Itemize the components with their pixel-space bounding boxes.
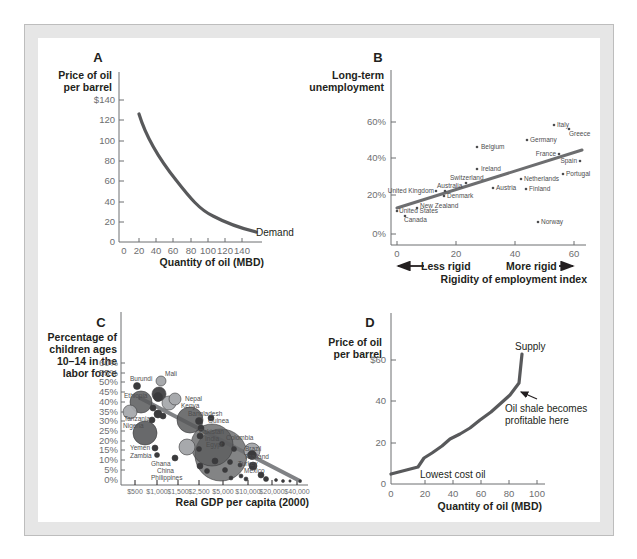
xtick-label: 0	[394, 248, 399, 259]
panel-c-ylabel-line1: Percentage of	[48, 331, 118, 343]
ytick-label: 0%	[372, 228, 386, 239]
panel-b: B Long-term unemployment 60% 40% 20% 0% …	[309, 50, 590, 285]
country-label: Yemen	[130, 444, 150, 451]
country-label: Zambia	[130, 452, 152, 459]
ytick-label: 0	[110, 236, 115, 247]
xtick-label: 0	[388, 488, 393, 499]
lowest-cost-oil-label: Lowest cost oil	[420, 469, 486, 480]
ytick-label: 0	[381, 478, 386, 489]
ytick-label: $140	[94, 94, 115, 105]
xtick-label: 120	[217, 245, 233, 256]
panel-b-xlabel: Rigidity of employment index	[441, 273, 588, 285]
country-label: Germany	[530, 136, 557, 144]
panel-b-ylabel-line2: unemployment	[309, 81, 384, 93]
panel-c-letter: C	[96, 315, 106, 330]
ytick-label: 0%	[104, 474, 118, 485]
country-label: Mali	[165, 370, 177, 377]
xtick-label: 20	[451, 248, 462, 259]
country-label: Denmark	[447, 192, 474, 199]
panel-b-ylabel-line1: Long-term	[332, 69, 384, 81]
xtick-label: 0	[121, 245, 126, 256]
xtick-label: $1,000	[146, 488, 168, 495]
panel-a: A Price of oil per barrel $140 120 100 8…	[58, 50, 294, 268]
country-label: Norway	[541, 218, 564, 226]
ytick-label: 20	[104, 216, 115, 227]
country-label: Greece	[569, 130, 591, 137]
ytick-label: 120	[99, 114, 115, 125]
oil-shale-label-line2: profitable here	[505, 415, 569, 426]
xtick-label: 100	[200, 245, 216, 256]
panel-a-x-ticks: 0 20 40 60 80 100 120 140	[121, 238, 250, 256]
country-label: Italy	[557, 121, 570, 129]
xtick-label: $5,000	[212, 488, 234, 495]
country-label: United States	[399, 207, 439, 214]
figure-svg: A Price of oil per barrel $140 120 100 8…	[0, 0, 637, 559]
ytick-label: 40	[375, 395, 386, 406]
panel-b-x-ticks: 0 20 40 60	[394, 241, 579, 259]
xtick-label: 40	[448, 488, 459, 499]
country-label: Switzerland	[450, 174, 484, 181]
xtick-label: $1,500	[167, 488, 189, 495]
xtick-label: $40,000	[284, 488, 309, 495]
xtick-label: $2,500	[188, 488, 210, 495]
country-label: Portugal	[566, 170, 591, 178]
country-label: Mexico	[244, 467, 265, 474]
panel-a-ylabel-line1: Price of oil	[58, 69, 112, 81]
panel-b-letter: B	[373, 50, 382, 65]
xtick-label: 100	[529, 488, 545, 499]
country-label: Burundi	[130, 375, 152, 382]
panel-b-country-labels: Italy Greece Germany Belgium France Spai…	[388, 121, 591, 226]
panel-a-letter: A	[93, 50, 103, 65]
panel-c-xlabel: Real GDP per capita (2000)	[176, 496, 309, 508]
xtick-label: $10,000	[235, 488, 260, 495]
ytick-label: 40	[104, 196, 115, 207]
country-label: France	[536, 150, 557, 157]
panel-d-y-ticks: $60 40 20 0	[370, 354, 396, 489]
country-label: Kenya	[181, 402, 200, 410]
country-label: Austria	[496, 184, 517, 191]
country-label: Egypt	[206, 441, 223, 449]
xtick-label: 40	[151, 245, 162, 256]
country-label: Philippines	[151, 474, 183, 482]
ytick-label: 80	[104, 155, 115, 166]
ytick-label: 20%	[367, 189, 387, 200]
country-label: Ghana	[151, 460, 171, 467]
panel-b-y-ticks: 60% 40% 20% 0%	[367, 116, 396, 239]
xtick-label: 60	[168, 245, 179, 256]
country-label: Australia	[437, 182, 463, 189]
country-label: Colombia	[226, 434, 254, 441]
xtick-label: 20	[134, 245, 145, 256]
xtick-label: $20,000	[259, 488, 284, 495]
xtick-label: 20	[420, 488, 431, 499]
panel-d-letter: D	[365, 315, 374, 330]
panel-a-xlabel: Quantity of oil (MBD)	[160, 256, 264, 268]
ytick-label: 60	[104, 175, 115, 186]
panel-d-ylabel-line1: Price of oil	[328, 336, 382, 348]
country-label: United Kingdom	[388, 187, 434, 195]
panel-d-xlabel: Quantity of oil (MBD)	[438, 500, 542, 512]
country-label: Brazil	[245, 445, 262, 452]
ytick-label: 60%	[367, 116, 387, 127]
xtick-label: 80	[186, 245, 197, 256]
panel-c-ylabel-line2: children ages	[49, 343, 117, 355]
xtick-label: 80	[504, 488, 515, 499]
panel-a-ylabel-line2: per barrel	[64, 81, 113, 93]
country-label: China	[157, 467, 174, 474]
demand-label: Demand	[256, 227, 294, 238]
xtick-label: 60	[476, 488, 487, 499]
country-label: Nigeria	[123, 422, 144, 430]
country-label: Tanzania	[124, 415, 150, 422]
panel-d-x-ticks: 0 20 40 60 80 100	[388, 480, 545, 499]
xtick-label: $500	[127, 488, 143, 495]
oil-shale-arrow-icon	[521, 392, 537, 399]
demand-curve	[139, 114, 256, 232]
less-rigid-label: Less rigid	[421, 260, 471, 272]
supply-curve	[391, 354, 522, 474]
supply-label: Supply	[515, 341, 546, 352]
ytick-label: $60	[370, 354, 386, 365]
country-label: Ireland	[481, 165, 501, 172]
country-label: Ethiopia	[124, 392, 148, 400]
country-label: Canada	[404, 216, 427, 223]
xtick-label: 60	[569, 248, 580, 259]
ytick-label: 20	[375, 437, 386, 448]
